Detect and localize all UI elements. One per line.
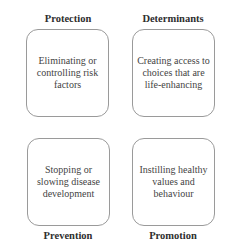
label-determinants: Determinants — [118, 13, 225, 24]
box-prevention: Stopping or slowing disease development — [27, 138, 110, 226]
box-determinants-text: Creating access to choices that are life… — [136, 55, 211, 91]
box-determinants: Creating access to choices that are life… — [132, 29, 215, 117]
box-promotion-text: Instilling healthy values and behaviour — [136, 164, 211, 200]
box-promotion: Instilling healthy values and behaviour — [132, 138, 215, 226]
label-promotion: Promotion — [118, 230, 225, 241]
box-prevention-text: Stopping or slowing disease development — [31, 164, 106, 200]
label-protection: Protection — [13, 13, 123, 24]
box-protection: Eliminating or controlling risk factors — [26, 29, 109, 117]
label-prevention: Prevention — [13, 230, 123, 241]
box-protection-text: Eliminating or controlling risk factors — [30, 55, 105, 91]
